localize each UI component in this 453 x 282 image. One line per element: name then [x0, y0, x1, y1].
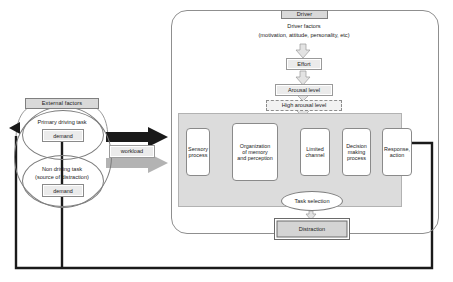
non-driving-task-ellipse — [22, 155, 104, 207]
process-box-decision-making-process: Decision making process — [342, 128, 371, 176]
primary-driving-task-label: Primary driving task — [22, 118, 102, 126]
primary-task-demand-box: demand — [42, 129, 84, 142]
effort-box: Effort — [286, 58, 322, 70]
response-line2: action — [390, 152, 404, 158]
distraction-box: Distraction — [274, 218, 350, 240]
driver-header-label: Driver — [281, 10, 328, 19]
workload-black-arrow — [106, 127, 168, 147]
feedback-arrowhead — [9, 122, 20, 134]
non-driving-task-label-line1: Non driving task — [22, 165, 102, 173]
driver-factors-line1: Driver factors — [258, 22, 350, 30]
arousal-level-box: Arousal level — [275, 84, 333, 96]
task-selection-node: Task selection — [281, 191, 343, 211]
diagram-canvas: External factors Primary driving task de… — [0, 0, 453, 282]
process-box-response-action: Response, action — [382, 128, 412, 176]
non-driving-task-demand-box: demand — [42, 184, 84, 197]
process-box-limited-channel: Limited channel — [300, 128, 330, 176]
non-driving-task-label-line2: (source of distraction) — [18, 173, 106, 181]
process-box-sensory-process: Sensory process — [186, 128, 210, 176]
limited-channel-line2: channel — [306, 152, 325, 158]
organization-line3: and perception — [237, 155, 273, 161]
decision-line3: process — [347, 155, 366, 161]
driver-factors-line2: (motivation, attitude, personality, etc) — [228, 31, 380, 39]
external-factors-label: External factors — [25, 98, 99, 109]
process-box-organization-memory-perception: Organization of memory and perception — [232, 123, 278, 181]
sensory-process-line2: process — [189, 152, 208, 158]
high-arousal-level-box: High arousal level — [266, 100, 342, 111]
workload-label: workload — [109, 145, 155, 158]
